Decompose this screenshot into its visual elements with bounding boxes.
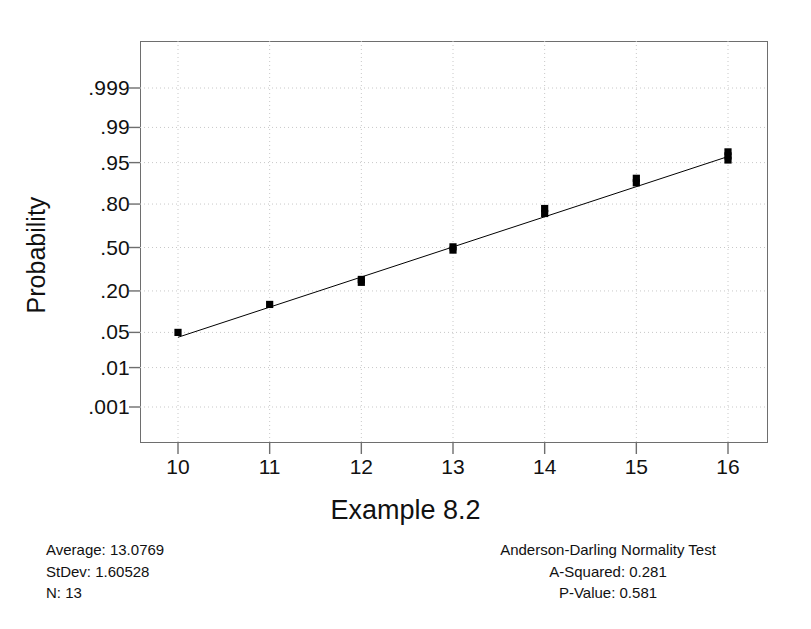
normality-test-title: Anderson-Darling Normality Test xyxy=(443,539,773,561)
average-stat: Average: 13.0769 xyxy=(46,539,164,561)
y-tick-label: .01 xyxy=(100,357,130,378)
x-axis-title: Example 8.2 xyxy=(0,495,811,525)
y-tick-label: .80 xyxy=(100,193,130,214)
stdev-stat: StDev: 1.60528 xyxy=(46,561,164,583)
a-squared-stat: A-Squared: 0.281 xyxy=(443,561,773,583)
y-tick-label: .999 xyxy=(88,77,130,98)
y-tick-label: .20 xyxy=(100,280,130,301)
y-axis-title: Probability xyxy=(23,145,49,365)
x-tick-label: 13 xyxy=(423,455,483,479)
p-value-stat: P-Value: 0.581 xyxy=(443,582,773,604)
normal-probability-plot: .999.99.95.80.50.20.05.01.001 1011121314… xyxy=(0,0,811,629)
y-tick-label: .99 xyxy=(100,116,130,137)
y-tick-label: .95 xyxy=(100,152,130,173)
normality-test-block: Anderson-Darling Normality Test A-Square… xyxy=(443,539,773,604)
y-tick-label: .50 xyxy=(100,237,130,258)
y-axis-ticks xyxy=(129,88,140,407)
summary-statistics-block: Average: 13.0769 StDev: 1.60528 N: 13 xyxy=(46,539,164,604)
x-tick-label: 10 xyxy=(148,455,208,479)
x-tick-label: 15 xyxy=(606,455,666,479)
sample-size-stat: N: 13 xyxy=(46,582,164,604)
x-axis-ticks xyxy=(178,443,728,454)
plot-area xyxy=(140,41,768,443)
y-tick-label: .001 xyxy=(88,396,130,417)
x-tick-label: 11 xyxy=(240,455,300,479)
y-tick-label: .05 xyxy=(100,321,130,342)
x-tick-label: 14 xyxy=(515,455,575,479)
x-tick-label: 16 xyxy=(698,455,758,479)
x-tick-label: 12 xyxy=(331,455,391,479)
